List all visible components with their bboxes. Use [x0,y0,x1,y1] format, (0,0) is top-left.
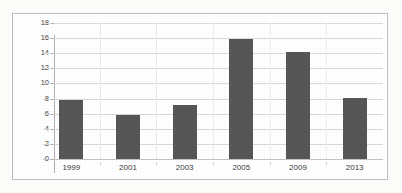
y-tick-mark-14 [51,53,54,54]
category-separator [270,23,271,159]
plot-area [43,23,383,159]
bar-1999 [59,100,83,159]
x-tick-label-2013: 2013 [326,162,383,174]
y-tick-mark-4 [51,129,54,130]
y-tick-mark-8 [51,99,54,100]
gridline-0 [43,159,383,160]
category-separator [213,23,214,159]
y-tick-mark-12 [51,68,54,69]
y-tick-mark-2 [51,144,54,145]
chart-page: 024681012141618 199920012003200520092013 [0,0,402,193]
x-tick-label-1999: 1999 [43,162,100,174]
x-tick-label-2003: 2003 [156,162,213,174]
x-axis-tick-labels: 199920012003200520092013 [43,162,383,176]
bar-2005 [229,39,253,159]
bar-2009 [286,52,310,159]
category-separator [100,23,101,159]
category-separator [326,23,327,159]
x-tick-label-2001: 2001 [100,162,157,174]
x-tick-label-2009: 2009 [270,162,327,174]
y-tick-mark-16 [51,38,54,39]
y-tick-mark-10 [51,83,54,84]
y-tick-mark-18 [51,23,54,24]
bar-2003 [173,105,197,159]
y-tick-mark-6 [51,114,54,115]
chart-frame: 024681012141618 199920012003200520092013 [12,13,388,180]
bar-2013 [343,98,367,159]
y-tick-mark-0 [51,159,54,160]
category-separator [156,23,157,159]
bar-2001 [116,115,140,159]
x-tick-label-2005: 2005 [213,162,270,174]
